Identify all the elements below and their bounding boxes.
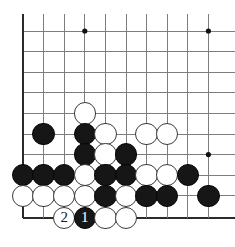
black-stone[interactable] (32, 164, 54, 186)
black-stone[interactable] (74, 123, 96, 145)
black-stone[interactable] (94, 164, 116, 186)
star-point-icon (82, 28, 87, 33)
white-stone[interactable] (32, 185, 54, 207)
white-stone[interactable] (135, 164, 157, 186)
go-diagram-root: 21 (0, 0, 235, 247)
black-stone[interactable] (94, 185, 116, 207)
white-stone[interactable] (12, 185, 34, 207)
white-stone[interactable] (135, 123, 157, 145)
black-stone[interactable] (74, 143, 96, 165)
black-stone[interactable] (74, 207, 96, 229)
black-stone[interactable] (32, 123, 54, 145)
white-stone[interactable] (94, 123, 116, 145)
white-stone[interactable] (74, 185, 96, 207)
white-stone[interactable] (74, 102, 96, 124)
black-stone[interactable] (135, 185, 157, 207)
white-stone[interactable] (94, 207, 116, 229)
star-point-icon (206, 152, 211, 157)
white-stone[interactable] (115, 185, 137, 207)
white-stone[interactable] (94, 143, 116, 165)
star-point-icon (206, 28, 211, 33)
black-stone[interactable] (197, 185, 219, 207)
black-stone[interactable] (115, 143, 137, 165)
go-board[interactable]: 21 (0, 0, 235, 247)
